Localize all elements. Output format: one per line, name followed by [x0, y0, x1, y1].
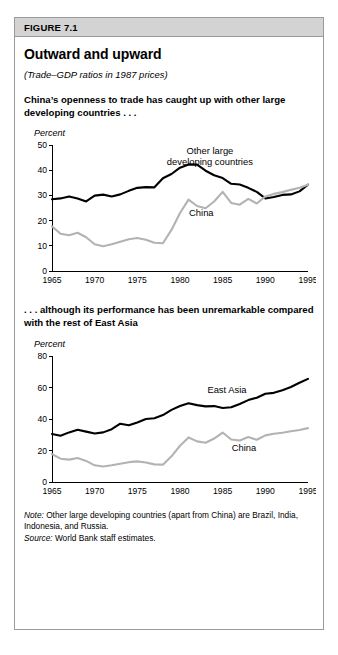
svg-text:1975: 1975 — [128, 275, 147, 285]
svg-text:1970: 1970 — [85, 486, 104, 496]
svg-text:50: 50 — [37, 140, 47, 150]
svg-text:1990: 1990 — [256, 275, 275, 285]
panel-1-caption: China’s openness to trade has caught up … — [24, 94, 314, 119]
note-text: Other large developing countries (apart … — [24, 510, 298, 532]
figure-title: Outward and upward — [24, 46, 314, 62]
svg-text:30: 30 — [37, 191, 47, 201]
svg-text:China: China — [232, 441, 257, 452]
figure-body: Outward and upward (Trade–GDP ratios in … — [15, 46, 323, 553]
line-chart-1: 010203040501965197019751980198519901995O… — [24, 139, 316, 291]
svg-text:40: 40 — [37, 166, 47, 176]
svg-text:East Asia: East Asia — [207, 384, 247, 395]
svg-text:40: 40 — [37, 414, 47, 424]
svg-text:1965: 1965 — [42, 486, 61, 496]
line-chart-2: 0204060801965197019751980198519901995Eas… — [24, 350, 316, 502]
svg-text:1985: 1985 — [213, 486, 232, 496]
svg-text:developing countries: developing countries — [167, 156, 253, 167]
figure-number-label: FIGURE 7.1 — [24, 22, 78, 33]
panel-2-caption: . . . although its performance has been … — [24, 304, 314, 329]
svg-text:20: 20 — [37, 216, 47, 226]
svg-text:1975: 1975 — [128, 486, 147, 496]
figure-box: FIGURE 7.1 Outward and upward (Trade–GDP… — [14, 17, 324, 630]
panel-1-chart: 010203040501965197019751980198519901995O… — [24, 139, 314, 291]
svg-text:1965: 1965 — [42, 275, 61, 285]
svg-text:10: 10 — [37, 241, 47, 251]
figure-header: FIGURE 7.1 — [15, 18, 323, 37]
source-prefix: Source: — [24, 533, 53, 543]
svg-text:1985: 1985 — [213, 275, 232, 285]
source-line: Source: World Bank staff estimates. — [24, 533, 314, 545]
figure-subtitle: (Trade–GDP ratios in 1987 prices) — [24, 69, 314, 80]
svg-text:60: 60 — [37, 382, 47, 392]
svg-text:1990: 1990 — [256, 486, 275, 496]
panel-2-chart: 0204060801965197019751980198519901995Eas… — [24, 350, 314, 502]
svg-text:China: China — [189, 207, 214, 218]
svg-text:1980: 1980 — [170, 486, 189, 496]
note-line: Note: Other large developing countries (… — [24, 510, 314, 534]
panel-2-axis-unit: Percent — [34, 339, 314, 349]
svg-text:1980: 1980 — [170, 275, 189, 285]
svg-text:80: 80 — [37, 351, 47, 361]
figure-notes: Note: Other large developing countries (… — [24, 510, 314, 553]
svg-text:1995: 1995 — [298, 275, 316, 285]
source-text: World Bank staff estimates. — [53, 533, 156, 543]
svg-text:1995: 1995 — [298, 486, 316, 496]
note-prefix: Note: — [24, 510, 44, 520]
svg-text:20: 20 — [37, 445, 47, 455]
svg-text:1970: 1970 — [85, 275, 104, 285]
panel-1-axis-unit: Percent — [34, 128, 314, 138]
svg-text:Other large: Other large — [186, 145, 233, 156]
